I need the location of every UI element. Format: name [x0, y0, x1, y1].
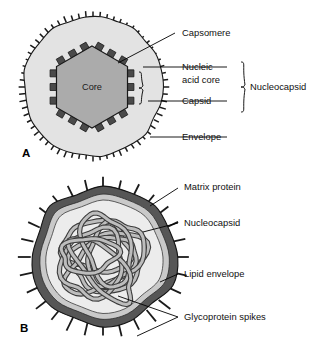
leader-glycoprotein-spikes-lower — [137, 317, 178, 336]
glycoprotein-spike — [28, 222, 40, 227]
glycoprotein-spike — [20, 273, 32, 276]
core-label: Core — [82, 82, 102, 92]
figure-container: Core Capsomere Nucleic acid core Capsid … — [0, 0, 328, 343]
nucleocapsid-brace — [241, 62, 245, 112]
panel-letter-a: A — [22, 147, 30, 159]
leader-matrix-protein — [150, 188, 178, 206]
label-glycoprotein-spikes: Glycoprotein spikes — [184, 311, 266, 322]
glycoprotein-spike — [173, 239, 186, 242]
glycoprotein-spike — [147, 310, 156, 321]
label-nucleocapsid-b: Nucleocapsid — [184, 217, 240, 228]
envelope-spike — [157, 113, 163, 115]
label-capsid: Capsid — [182, 95, 211, 106]
envelope-spike — [154, 120, 159, 123]
panel-a-group: Core Capsomere Nucleic acid core Capsid … — [19, 11, 307, 161]
panel-b-group: Matrix protein Nucleocapsid Lipid envelo… — [18, 177, 266, 336]
envelope-spike — [22, 107, 28, 109]
panel-letter-b: B — [20, 322, 28, 334]
envelope-spike — [71, 15, 73, 20]
envelope-spike — [64, 16, 67, 22]
label-nucleocapsid-a: Nucleocapsid — [250, 81, 306, 92]
label-lipid-envelope: Lipid envelope — [184, 268, 244, 279]
virus-structure-figure: Core Capsomere Nucleic acid core Capsid … — [0, 0, 328, 343]
label-capsomere: Capsomere — [182, 27, 230, 38]
envelope-spike — [19, 100, 26, 101]
envelope-spike — [159, 107, 166, 109]
label-matrix-protein: Matrix protein — [184, 181, 241, 192]
glycoprotein-spike — [66, 317, 73, 330]
envelope-spike — [34, 131, 39, 135]
glycoprotein-spike — [27, 287, 38, 292]
label-nucleic-acid-core-line1: Nucleic — [182, 61, 213, 72]
glycoprotein-spike — [21, 239, 33, 242]
label-envelope: Envelope — [182, 131, 221, 142]
label-nucleic-acid-core-line2: acid core — [182, 74, 220, 85]
glycoprotein-spike — [159, 300, 171, 309]
